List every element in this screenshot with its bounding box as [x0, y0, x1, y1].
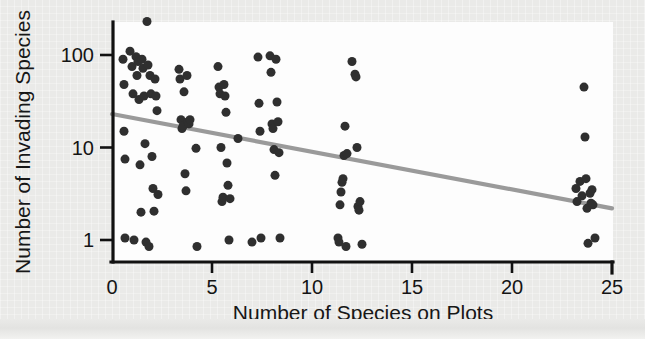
x-tick-label: 25 [601, 276, 623, 298]
data-point [133, 71, 142, 80]
data-point [136, 160, 145, 169]
scatter-chart: 110100 0510152025 Number of Species on P… [0, 0, 645, 339]
data-point [141, 139, 150, 148]
data-point [275, 148, 284, 157]
data-point [137, 208, 146, 217]
data-point [348, 57, 357, 66]
data-point [222, 108, 231, 117]
data-point [356, 197, 365, 206]
data-point [591, 234, 600, 243]
x-tick-label: 5 [206, 276, 217, 298]
data-point [339, 174, 348, 183]
data-point [217, 143, 226, 152]
data-point [150, 207, 159, 216]
data-point [234, 134, 243, 143]
data-point [119, 55, 128, 64]
data-point [274, 117, 283, 126]
y-tick-label: 100 [61, 44, 94, 66]
data-point [193, 242, 202, 251]
x-tick-label: 0 [106, 276, 117, 298]
data-point [183, 71, 192, 80]
data-point [255, 99, 264, 108]
data-point [337, 188, 346, 197]
x-tick-label: 15 [401, 276, 423, 298]
data-point [145, 242, 154, 251]
plot-area-background [113, 22, 613, 262]
data-point [273, 98, 282, 107]
data-point [181, 169, 190, 178]
data-point [578, 191, 587, 200]
data-point [120, 127, 129, 136]
data-point [186, 115, 195, 124]
data-point [342, 242, 351, 251]
data-point [272, 55, 281, 64]
x-axis-ticks: 0510152025 [106, 262, 623, 298]
data-point [271, 171, 280, 180]
data-point [226, 194, 235, 203]
data-point [589, 200, 598, 209]
data-point [582, 174, 591, 183]
data-point [221, 92, 230, 101]
data-point [276, 234, 285, 243]
data-point [130, 236, 139, 245]
x-axis-label: Number of Species on Plots [233, 301, 493, 324]
data-point [336, 200, 345, 209]
data-point [182, 186, 191, 195]
data-point [121, 155, 130, 164]
data-point [256, 127, 265, 136]
data-point [120, 80, 129, 89]
data-point [153, 106, 162, 115]
data-point [267, 68, 276, 77]
data-point [151, 75, 160, 84]
y-axis-ticks: 110100 [61, 44, 113, 251]
y-tick-label: 10 [72, 137, 94, 159]
data-point [353, 143, 362, 152]
data-point [224, 181, 233, 190]
data-point [341, 122, 350, 131]
data-point [254, 53, 263, 62]
data-point [343, 149, 352, 158]
y-tick-label: 1 [83, 229, 94, 251]
data-point [154, 190, 163, 199]
data-point [225, 236, 234, 245]
data-point [220, 80, 229, 89]
data-point [580, 83, 589, 92]
data-point [248, 238, 257, 247]
data-point [152, 92, 161, 101]
data-point [588, 185, 597, 194]
data-point [257, 234, 266, 243]
data-point [355, 206, 364, 215]
data-point [192, 144, 201, 153]
data-point [148, 152, 157, 161]
data-point [180, 87, 189, 96]
data-point [121, 234, 130, 243]
x-tick-label: 10 [301, 276, 323, 298]
data-point [581, 132, 590, 141]
figure-panel: 110100 0510152025 Number of Species on P… [0, 0, 645, 339]
data-point [223, 158, 232, 167]
data-point [143, 17, 152, 26]
data-point [352, 72, 361, 81]
data-point [214, 62, 223, 71]
x-tick-label: 20 [501, 276, 523, 298]
data-point [358, 240, 367, 249]
data-point [144, 60, 153, 69]
y-axis-label: Number of Invading Species [11, 10, 34, 274]
data-point [175, 65, 184, 74]
